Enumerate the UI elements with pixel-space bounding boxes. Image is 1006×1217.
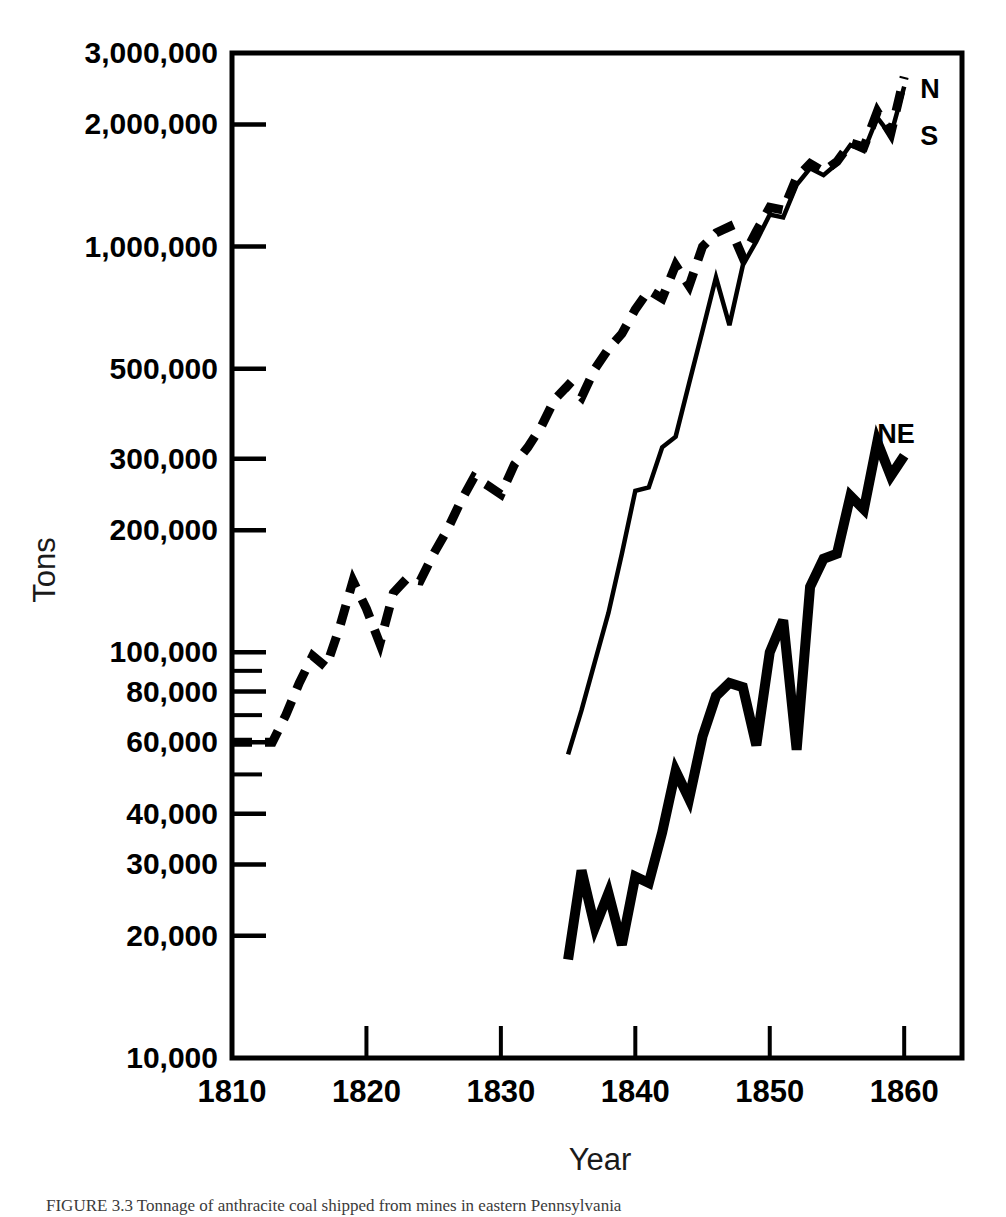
y-axis-minor-ticks (232, 671, 262, 775)
y-tick-label: 40,000 (126, 797, 218, 830)
figure-root: 3,000,0002,000,0001,000,000500,000300,00… (0, 0, 1006, 1217)
x-tick-label: 1850 (735, 1074, 804, 1109)
x-axis-ticks (366, 1026, 904, 1058)
series-line-s (568, 87, 904, 755)
coal-production-chart: 3,000,0002,000,0001,000,000500,000300,00… (0, 0, 1006, 1217)
y-tick-label: 80,000 (126, 675, 218, 708)
x-tick-label: 1810 (198, 1074, 267, 1109)
y-tick-label: 3,000,000 (85, 36, 218, 69)
figure-caption: FIGURE 3.3 Tonnage of anthracite coal sh… (46, 1196, 976, 1216)
y-axis-major-ticks (232, 124, 266, 935)
y-tick-label: 100,000 (110, 635, 218, 668)
series-line-ne (568, 442, 904, 959)
y-tick-label: 20,000 (126, 919, 218, 952)
x-tick-label: 1820 (332, 1074, 401, 1109)
series-label-n: N (920, 74, 940, 104)
y-axis-tick-labels: 3,000,0002,000,0001,000,000500,000300,00… (85, 36, 218, 1074)
plot-frame (232, 53, 962, 1058)
x-axis-title: Year (569, 1142, 632, 1177)
y-tick-label: 60,000 (126, 725, 218, 758)
y-tick-label: 2,000,000 (85, 107, 218, 140)
x-axis-tick-labels: 181018201830184018501860 (198, 1074, 939, 1109)
series-label-s: S (920, 121, 938, 151)
series-label-ne: NE (877, 419, 915, 449)
y-tick-label: 200,000 (110, 513, 218, 546)
x-tick-label: 1860 (870, 1074, 939, 1109)
y-tick-label: 30,000 (126, 847, 218, 880)
y-tick-label: 300,000 (110, 442, 218, 475)
x-tick-label: 1830 (466, 1074, 535, 1109)
y-tick-label: 10,000 (126, 1041, 218, 1074)
x-tick-label: 1840 (601, 1074, 670, 1109)
y-axis-title: Tons (27, 537, 62, 602)
y-tick-label: 1,000,000 (85, 230, 218, 263)
data-series-group (232, 77, 904, 960)
y-tick-label: 500,000 (110, 352, 218, 385)
